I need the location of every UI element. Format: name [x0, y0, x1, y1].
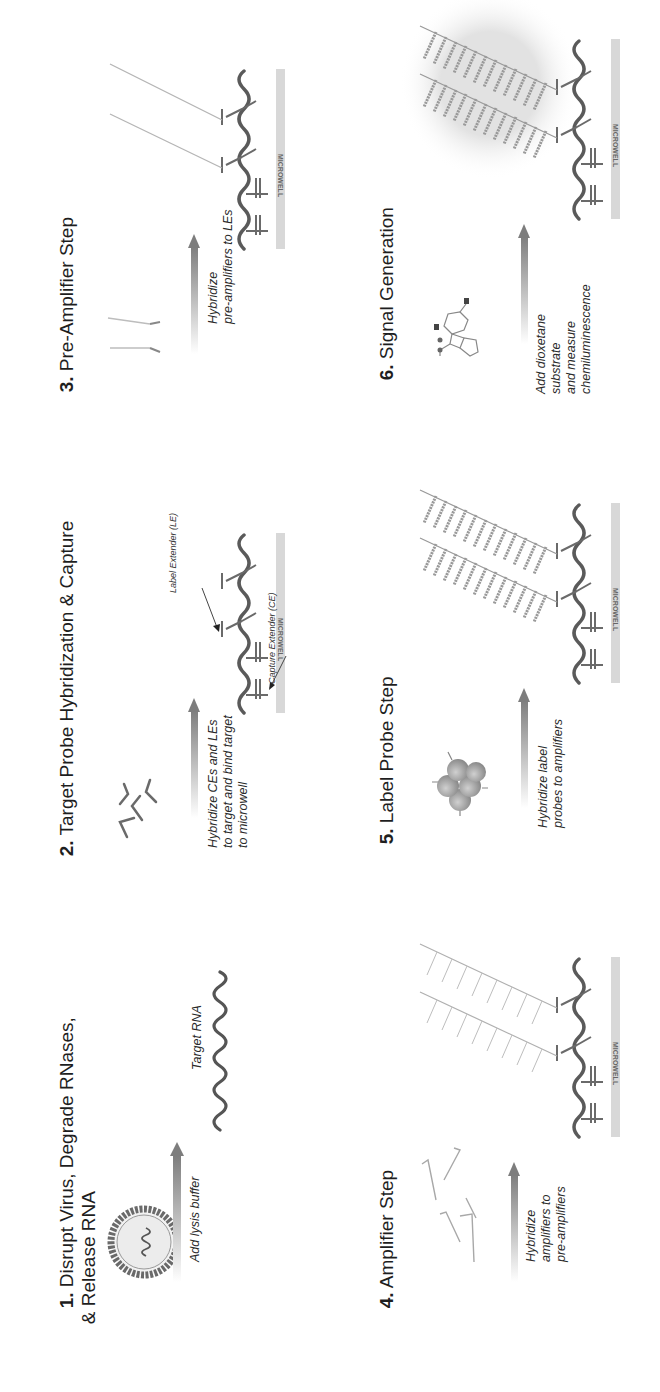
step-5-title: 5. Label Probe Step — [354, 676, 420, 876]
step-6-caption: Add dioxetane substrate and measure chem… — [534, 284, 594, 394]
label-probe-complex — [410, 478, 630, 688]
label-extender-label: Label Extender (LE) — [168, 513, 178, 593]
step-1-title: 1. Disrupt Virus, Degrade RNases, & Rele… — [34, 1017, 122, 1340]
amplifier-complex — [410, 942, 630, 1142]
step-3-title: 3. Pre-Amplifier Step — [34, 217, 100, 424]
step-6-title: 6. Signal Generation — [354, 207, 420, 412]
target-rna-label: Target RNA — [190, 1005, 205, 1070]
step-4-panel: 4. Amplifier Step Hybridize amplifiers t… — [330, 928, 660, 1392]
capture-extender-label: Capture Extender (CE) — [267, 592, 277, 684]
step-4-title: 4. Amplifier Step — [354, 1170, 420, 1340]
dioxetane-molecule-icon — [430, 294, 486, 364]
step-1-panel: 1. Disrupt Virus, Degrade RNases, & Rele… — [0, 928, 330, 1392]
process-arrow-icon — [170, 1142, 184, 1282]
step-5-panel: 5. Label Probe Step Hybridize label prob… — [330, 464, 660, 928]
step-2-caption: Hybridize CEs and LEs to target and bind… — [206, 715, 251, 848]
chemiluminescence-glow — [400, 0, 580, 179]
process-arrow-icon — [518, 688, 530, 808]
target-rna-strand — [210, 962, 230, 1132]
process-arrow-icon — [188, 698, 200, 818]
amplifier-icon — [414, 1142, 484, 1272]
process-arrow-icon — [518, 224, 530, 344]
pre-amplifier-complex — [100, 54, 290, 254]
step-4-caption: Hybridize amplifiers to pre-amplifiers — [524, 1186, 569, 1262]
signal-generation-complex — [390, 4, 630, 224]
step-2-panel: 2. Target Probe Hybridization & Capture … — [0, 464, 330, 928]
bdna-assay-diagram: MICROWELL 1. Disrupt Vir — [0, 0, 660, 1392]
step-2-title: 2. Target Probe Hybridization & Capture — [34, 521, 100, 888]
pre-amplifier-icon — [100, 298, 170, 378]
step-5-caption: Hybridize label probes to amplifiers — [536, 719, 566, 828]
process-arrow-icon — [508, 1162, 520, 1282]
label-probe-enzyme-icon — [430, 748, 490, 818]
step-1-caption: Add lysis buffer — [188, 1177, 203, 1262]
step-3-panel: 3. Pre-Amplifier Step Hybridize pre-ampl… — [0, 0, 330, 464]
probe-fragments-icon — [112, 772, 172, 842]
step-6-panel: 6. Signal Generation Add dioxetane subst… — [330, 0, 660, 464]
